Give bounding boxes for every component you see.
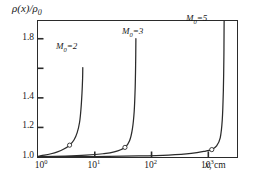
x-axis-label: x, cm bbox=[205, 160, 226, 170]
curve-label-3: M0=5 bbox=[186, 13, 207, 23]
curve-label-symbol: M bbox=[186, 13, 194, 23]
curve-2 bbox=[38, 39, 136, 157]
x-tick-label: 100 bbox=[35, 160, 48, 170]
x-tick-exponent: 1 bbox=[97, 158, 100, 165]
data-point-marker-1 bbox=[67, 143, 71, 147]
y-tick-label: 1.8 bbox=[0, 33, 34, 42]
y-tick-label: 1.2 bbox=[0, 121, 34, 130]
curve-label-symbol: M bbox=[56, 41, 64, 51]
y-axis-label: ρ(x)/ρ0 bbox=[12, 2, 42, 17]
curve-label-value: =2 bbox=[67, 41, 78, 51]
x-tick-label: 101 bbox=[87, 160, 100, 170]
x-tick-label: 102 bbox=[144, 160, 157, 170]
curve-label-2: M0=3 bbox=[122, 26, 143, 36]
y-tick-label-group: 1.81.41.21.0 bbox=[0, 20, 34, 158]
y-axis-label-numerator: ρ(x)/ bbox=[12, 2, 33, 14]
curve-label-value: =5 bbox=[197, 13, 208, 23]
y-axis-label-subscript: 0 bbox=[38, 8, 42, 17]
y-tick-label: 1.4 bbox=[0, 92, 34, 101]
data-point-marker-3 bbox=[210, 148, 214, 152]
curve-label-symbol: M bbox=[122, 26, 130, 36]
y-tick-label: 1.0 bbox=[0, 151, 34, 160]
curve-1 bbox=[38, 68, 83, 157]
x-tick-mantissa: 10 bbox=[144, 160, 154, 170]
curve-label-value: =3 bbox=[133, 26, 144, 36]
figure-container: ρ(x)/ρ0 1.81.41.21.0 100101102103 x, cm … bbox=[0, 0, 256, 182]
data-point-marker-2 bbox=[123, 145, 127, 149]
x-tick-mantissa: 10 bbox=[87, 160, 97, 170]
x-tick-exponent: 2 bbox=[154, 158, 157, 165]
x-axis-label-unit: , cm bbox=[209, 160, 225, 170]
curve-label-1: M0=2 bbox=[56, 41, 77, 51]
x-tick-exponent: 0 bbox=[44, 158, 47, 165]
x-tick-mantissa: 10 bbox=[35, 160, 45, 170]
